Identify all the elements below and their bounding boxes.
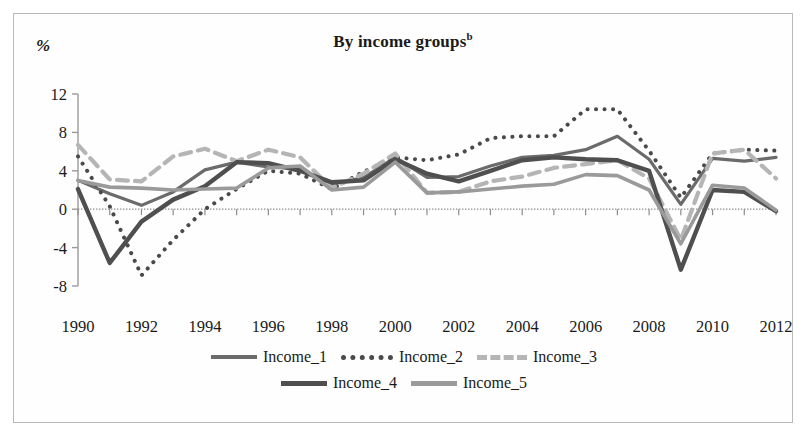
series-layer xyxy=(78,109,776,275)
chart-legend: Income_1 Income_2 Income_3 Income_4 Inco… xyxy=(14,344,794,396)
x-tick-label: 1996 xyxy=(252,317,285,336)
legend-row-2: Income_4 Income_5 xyxy=(14,370,794,396)
x-tick-label: 1992 xyxy=(125,317,158,336)
x-tick-label: 1990 xyxy=(62,317,95,336)
y-tick-label: 4 xyxy=(59,162,67,181)
x-tick-label: 2006 xyxy=(569,317,602,336)
legend-row-1: Income_1 Income_2 Income_3 xyxy=(14,344,794,370)
y-tick-label: -8 xyxy=(53,277,67,296)
legend-swatch-dashed-icon xyxy=(477,355,527,360)
legend-swatch-dotted-icon xyxy=(341,355,393,360)
legend-label-income-5: Income_5 xyxy=(463,374,527,392)
legend-swatch-solid-icon xyxy=(211,355,257,359)
legend-label-income-1: Income_1 xyxy=(263,348,327,366)
y-tick-label: -4 xyxy=(53,239,67,258)
legend-item-income-1[interactable]: Income_1 xyxy=(211,348,327,366)
x-tick-label: 2000 xyxy=(379,317,412,336)
x-tick-label: 2012 xyxy=(760,317,793,336)
legend-label-income-4: Income_4 xyxy=(333,374,397,392)
chart-figure: % By income groupsb 12840-4-819901992199… xyxy=(13,13,793,423)
legend-label-income-2: Income_2 xyxy=(399,348,463,366)
legend-item-income-5[interactable]: Income_5 xyxy=(411,374,527,392)
legend-item-income-4[interactable]: Income_4 xyxy=(281,374,397,392)
legend-swatch-gray-icon xyxy=(411,381,457,386)
x-tick-label: 2004 xyxy=(506,317,539,336)
x-tick-label: 1998 xyxy=(315,317,348,336)
legend-item-income-3[interactable]: Income_3 xyxy=(477,348,597,366)
y-tick-label: 12 xyxy=(51,85,68,104)
x-tick-label: 2010 xyxy=(696,317,729,336)
legend-label-income-3: Income_3 xyxy=(533,348,597,366)
y-tick-label: 0 xyxy=(59,200,67,219)
x-tick-label: 1994 xyxy=(188,317,221,336)
x-tick-label: 2008 xyxy=(633,317,666,336)
line-chart-svg: 12840-4-81990199219941996199820002002200… xyxy=(14,14,794,344)
legend-swatch-thick-icon xyxy=(281,381,327,386)
y-tick-label: 8 xyxy=(59,123,67,142)
legend-item-income-2[interactable]: Income_2 xyxy=(341,348,463,366)
x-tick-label: 2002 xyxy=(442,317,475,336)
